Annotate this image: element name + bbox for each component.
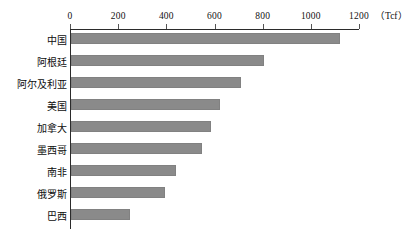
x-axis-tick-labels: 020040060080010001200（Tcf） bbox=[0, 10, 404, 24]
category-label: 墨西哥 bbox=[0, 143, 67, 158]
x-axis-tick-label: 0 bbox=[68, 10, 73, 22]
x-axis-tick-label: 600 bbox=[207, 10, 222, 22]
x-axis-tick-mark bbox=[118, 24, 119, 29]
category-label: 美国 bbox=[0, 99, 67, 114]
bar-row: 墨西哥 bbox=[0, 140, 404, 162]
bar bbox=[71, 33, 340, 44]
bar bbox=[71, 55, 264, 66]
bar-row: 南非 bbox=[0, 162, 404, 184]
bar bbox=[71, 209, 130, 220]
category-label: 南非 bbox=[0, 165, 67, 180]
bar-row: 加拿大 bbox=[0, 118, 404, 140]
bar-row: 巴西 bbox=[0, 206, 404, 228]
category-label: 中国 bbox=[0, 33, 67, 48]
bar-row: 阿根廷 bbox=[0, 52, 404, 74]
bar-row: 美国 bbox=[0, 96, 404, 118]
x-axis-tick-mark bbox=[215, 24, 216, 29]
category-label: 阿尔及利亚 bbox=[0, 77, 67, 92]
x-axis-tick-label: 400 bbox=[159, 10, 174, 22]
category-label: 加拿大 bbox=[0, 121, 67, 136]
x-axis-tick-mark bbox=[359, 24, 360, 29]
x-axis-tick-mark bbox=[311, 24, 312, 29]
bar bbox=[71, 121, 211, 132]
x-axis-tick-label: 1000 bbox=[301, 10, 321, 22]
category-label: 俄罗斯 bbox=[0, 187, 67, 202]
category-label: 阿根廷 bbox=[0, 55, 67, 70]
bar bbox=[71, 143, 202, 154]
x-axis-unit-label: （Tcf） bbox=[375, 10, 404, 22]
x-axis-tick-label: 200 bbox=[111, 10, 126, 22]
bar bbox=[71, 187, 165, 198]
bar-row: 阿尔及利亚 bbox=[0, 74, 404, 96]
x-axis-tick-mark bbox=[70, 24, 71, 29]
bar-row: 俄罗斯 bbox=[0, 184, 404, 206]
x-axis-tick-label: 800 bbox=[255, 10, 270, 22]
bar bbox=[71, 165, 176, 176]
x-axis-tick-mark bbox=[166, 24, 167, 29]
category-label: 巴西 bbox=[0, 209, 67, 224]
plot-area: 中国阿根廷阿尔及利亚美国加拿大墨西哥南非俄罗斯巴西 bbox=[0, 30, 404, 229]
bar bbox=[71, 77, 241, 88]
bar-row: 中国 bbox=[0, 30, 404, 52]
bar bbox=[71, 99, 220, 110]
bar-chart: 020040060080010001200（Tcf） 中国阿根廷阿尔及利亚美国加… bbox=[0, 0, 404, 249]
x-axis-tick-mark bbox=[263, 24, 264, 29]
x-axis-tick-label: 1200 bbox=[349, 10, 369, 22]
